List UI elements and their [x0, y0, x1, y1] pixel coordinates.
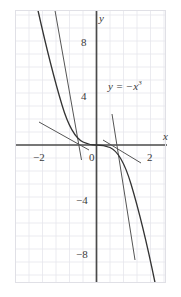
equation-base: y = −x [108, 80, 138, 92]
y-tick-label-minus4: −4 [76, 195, 88, 206]
equation-exponent: 3 [138, 79, 142, 87]
x-tick-label-2: 2 [147, 152, 153, 163]
y-tick-label-4: 4 [81, 91, 87, 102]
plot-background [0, 0, 181, 297]
math-plot-figure: −2 0 2 8 4 −4 −8 x y y = −x3 [0, 0, 181, 297]
equation-annotation: y = −x3 [108, 80, 142, 92]
x-tick-label-zero: 0 [89, 152, 95, 163]
y-tick-label-8: 8 [81, 37, 87, 48]
x-tick-label-minus2: −2 [33, 152, 45, 163]
y-tick-label-minus8: −8 [76, 249, 88, 260]
x-axis-name: x [163, 131, 168, 142]
y-axis-name: y [99, 13, 104, 24]
plot-canvas [0, 0, 181, 297]
